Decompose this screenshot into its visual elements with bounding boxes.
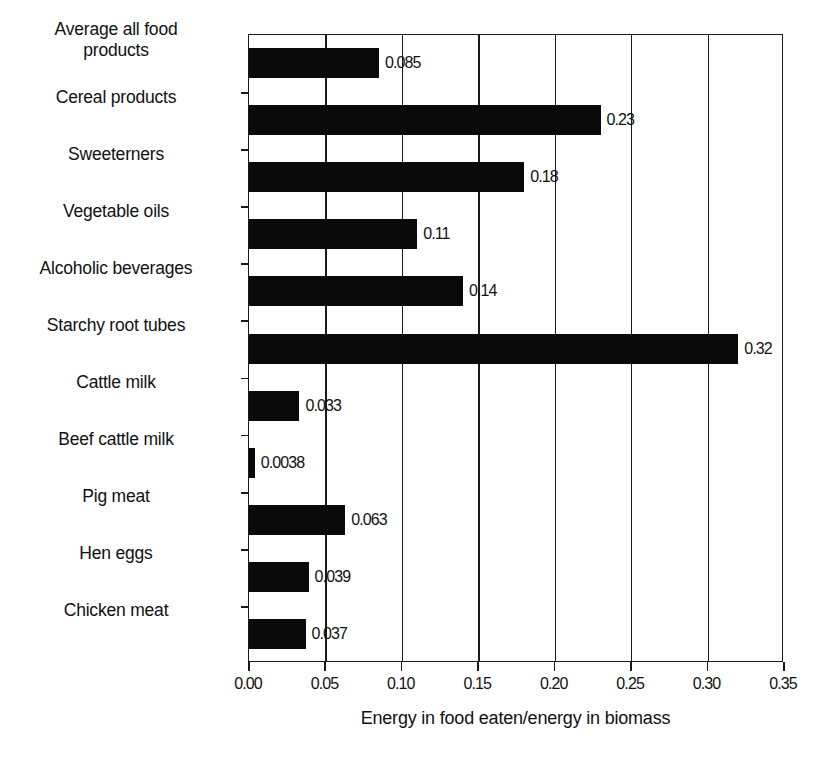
x-axis-tick-label: 0.00 (234, 675, 262, 693)
y-axis-tick (241, 435, 249, 437)
category-label: Alcoholic beverages (0, 258, 232, 279)
y-axis-tick (241, 149, 249, 151)
bar (249, 48, 379, 78)
category-label: Average all foodproducts (0, 19, 232, 61)
bar (249, 505, 345, 535)
bar-value-label: 0.23 (607, 105, 635, 135)
x-axis-tick-label: 0.35 (769, 675, 797, 693)
bar (249, 105, 601, 135)
x-axis-tick (477, 662, 479, 671)
y-axis-tick (241, 606, 249, 608)
category-axis-labels: Average all foodproductsCereal productsS… (0, 34, 240, 662)
bar-chart-figure: Average all foodproductsCereal productsS… (0, 0, 836, 772)
category-label: Cattle milk (0, 372, 232, 393)
category-label: Chicken meat (0, 600, 232, 621)
category-label: Hen eggs (0, 543, 232, 564)
category-label: Sweeterners (0, 144, 232, 165)
x-axis-tick (324, 662, 326, 671)
x-axis-tick (554, 662, 556, 671)
bar (249, 219, 417, 249)
plot-area: 0.0850.230.180.110.140.320.0330.00380.06… (248, 34, 783, 662)
y-axis-tick (241, 549, 249, 551)
bar (249, 391, 299, 421)
bar (249, 276, 463, 306)
bar (249, 162, 524, 192)
bar-value-label: 0.037 (312, 619, 348, 649)
bar (249, 619, 306, 649)
x-axis-tick-label: 0.10 (387, 675, 415, 693)
x-axis-title: Energy in food eaten/energy in biomass (248, 708, 783, 729)
x-axis-tick (248, 662, 250, 671)
bar-value-label: 0.085 (385, 48, 421, 78)
bar-value-label: 0.32 (744, 334, 772, 364)
bar-value-label: 0.18 (530, 162, 558, 192)
bar-value-label: 0.033 (305, 391, 341, 421)
bar-value-label: 0.14 (469, 276, 497, 306)
x-axis-tick (630, 662, 632, 671)
x-axis-tick-label: 0.05 (311, 675, 339, 693)
bar-value-label: 0.039 (315, 562, 351, 592)
y-axis-tick (241, 206, 249, 208)
y-axis-tick (241, 263, 249, 265)
category-label: Vegetable oils (0, 201, 232, 222)
x-axis-tick (783, 662, 785, 671)
y-axis-tick (241, 378, 249, 380)
y-axis-tick (241, 92, 249, 94)
category-label: Beef cattle milk (0, 429, 232, 450)
x-axis-tick-label: 0.20 (540, 675, 568, 693)
bar (249, 562, 309, 592)
category-label: Starchy root tubes (0, 315, 232, 336)
y-axis-tick (241, 320, 249, 322)
bar-value-label: 0.0038 (261, 448, 305, 478)
bar (249, 448, 255, 478)
category-label: Cereal products (0, 87, 232, 108)
category-label: Pig meat (0, 486, 232, 507)
y-axis-tick (241, 492, 249, 494)
bar-value-label: 0.063 (351, 505, 387, 535)
bar (249, 334, 738, 364)
x-axis-tick-label: 0.25 (616, 675, 644, 693)
x-axis-tick (401, 662, 403, 671)
bar-value-label: 0.11 (423, 219, 449, 249)
x-axis-tick (707, 662, 709, 671)
x-axis: 0.000.050.100.150.200.250.300.35 (248, 662, 783, 663)
x-axis-tick-label: 0.15 (464, 675, 492, 693)
x-axis-tick-label: 0.30 (693, 675, 721, 693)
